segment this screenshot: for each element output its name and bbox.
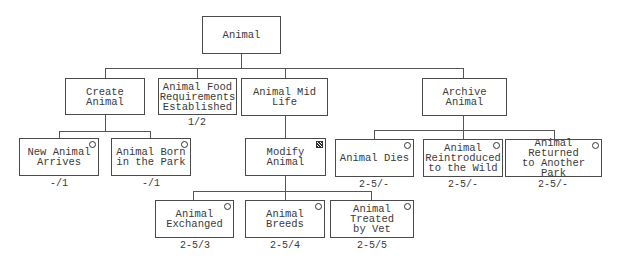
circle-marker-icon xyxy=(592,142,599,149)
connector xyxy=(59,131,60,138)
node-caption: 2-5/4 xyxy=(245,240,325,251)
node-animal-returned[interactable]: Animal Returned to Another Park xyxy=(505,139,602,177)
node-new-animal-arrives[interactable]: New Animal Arrives xyxy=(19,138,99,176)
circle-marker-icon xyxy=(224,203,231,210)
connector xyxy=(463,68,464,78)
node-animal-dies[interactable]: Animal Dies xyxy=(335,139,414,177)
node-label: Animal Breeds xyxy=(248,209,322,229)
node-label: Archive Animal xyxy=(425,87,504,107)
node-label: Animal Treated by Vet xyxy=(333,204,411,234)
node-animal-treated-by-vet[interactable]: Animal Treated by Vet xyxy=(330,200,414,238)
connector xyxy=(193,191,372,192)
node-caption: 2-5/3 xyxy=(155,240,235,251)
node-label: Create Animal xyxy=(68,87,142,107)
node-caption: 1/2 xyxy=(157,117,237,128)
node-label: Animal Returned to Another Park xyxy=(508,138,599,178)
node-label: Modify Animal xyxy=(248,147,323,167)
node-modify-animal[interactable]: Modify Animal xyxy=(245,138,326,176)
node-animal-exchanged[interactable]: Animal Exchanged xyxy=(155,200,234,238)
node-caption: 2-5/- xyxy=(513,179,593,190)
asterisk-marker-icon xyxy=(316,141,323,148)
node-animal-reintroduced[interactable]: Animal Reintroduced to the Wild xyxy=(423,139,503,177)
circle-marker-icon xyxy=(315,203,322,210)
connector xyxy=(197,68,198,78)
node-label: Animal Reintroduced to the Wild xyxy=(425,143,501,173)
node-caption: 2-5/- xyxy=(423,179,503,190)
node-create-animal[interactable]: Create Animal xyxy=(65,78,145,115)
node-animal-breeds[interactable]: Animal Breeds xyxy=(245,200,325,238)
connector xyxy=(285,68,286,78)
node-food-requirements[interactable]: Animal Food Requirements Established xyxy=(158,78,237,115)
connector xyxy=(105,68,106,78)
node-label: Animal Exchanged xyxy=(166,209,223,229)
circle-marker-icon xyxy=(89,141,96,148)
connector xyxy=(463,130,464,139)
circle-marker-icon xyxy=(404,203,411,210)
circle-marker-icon xyxy=(404,142,411,149)
node-caption: -/1 xyxy=(111,178,191,189)
node-caption: 2-5/- xyxy=(334,179,414,190)
connector xyxy=(150,131,151,138)
node-label: Animal Dies xyxy=(340,153,409,163)
connector xyxy=(241,53,242,68)
connector xyxy=(285,176,286,191)
connector xyxy=(374,130,375,139)
connector xyxy=(59,131,151,132)
connector xyxy=(105,114,106,132)
connector xyxy=(285,191,286,200)
connector xyxy=(374,130,555,131)
connector xyxy=(371,191,372,200)
circle-marker-icon xyxy=(493,142,500,149)
node-animal-mid-life[interactable]: Animal Mid Life xyxy=(241,78,328,116)
node-label: New Animal Arrives xyxy=(27,147,90,167)
node-archive-animal[interactable]: Archive Animal xyxy=(422,78,507,116)
node-caption: 2-5/5 xyxy=(332,240,412,251)
connector xyxy=(193,191,194,200)
node-label: Animal Mid Life xyxy=(244,87,325,107)
connector xyxy=(285,115,286,138)
node-caption: -/1 xyxy=(19,178,99,189)
node-label: Animal Food Requirements Established xyxy=(160,82,236,112)
connector xyxy=(463,116,464,130)
circle-marker-icon xyxy=(181,141,188,148)
node-label: Animal xyxy=(223,30,261,40)
node-animal[interactable]: Animal xyxy=(202,16,281,54)
node-animal-born-in-park[interactable]: Animal Born in the Park xyxy=(111,138,191,176)
node-label: Animal Born in the Park xyxy=(116,147,185,167)
